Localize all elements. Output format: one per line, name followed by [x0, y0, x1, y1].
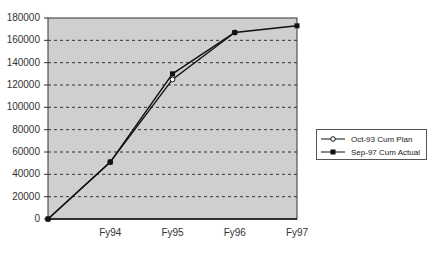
- filled-square-marker-icon: [321, 147, 345, 157]
- legend: Oct-93 Cum Plan Sep-97 Cum Actual: [316, 129, 427, 160]
- open-circle-marker-icon: [321, 134, 345, 144]
- y-tick-label: 40000: [2, 168, 40, 180]
- x-tick-label: Fy95: [153, 227, 193, 239]
- y-tick-label: 180000: [2, 12, 40, 24]
- plot-area: [0, 0, 430, 254]
- x-tick-label: Fy96: [215, 227, 255, 239]
- line-chart: 0200004000060000800001000001200001400001…: [0, 0, 430, 254]
- y-tick-label: 80000: [2, 124, 40, 136]
- y-tick-label: 120000: [2, 79, 40, 91]
- y-tick-label: 0: [2, 213, 40, 225]
- x-tick-label: Fy94: [90, 227, 130, 239]
- legend-label: Oct-93 Cum Plan: [351, 135, 412, 144]
- legend-item-actual: Sep-97 Cum Actual: [321, 146, 420, 158]
- y-tick-label: 160000: [2, 34, 40, 46]
- x-tick-label: Fy97: [277, 227, 317, 239]
- y-tick-label: 140000: [2, 57, 40, 69]
- y-tick-label: 60000: [2, 146, 40, 158]
- legend-label: Sep-97 Cum Actual: [351, 148, 420, 157]
- y-tick-label: 100000: [2, 101, 40, 113]
- y-tick-label: 20000: [2, 191, 40, 203]
- legend-item-plan: Oct-93 Cum Plan: [321, 133, 412, 145]
